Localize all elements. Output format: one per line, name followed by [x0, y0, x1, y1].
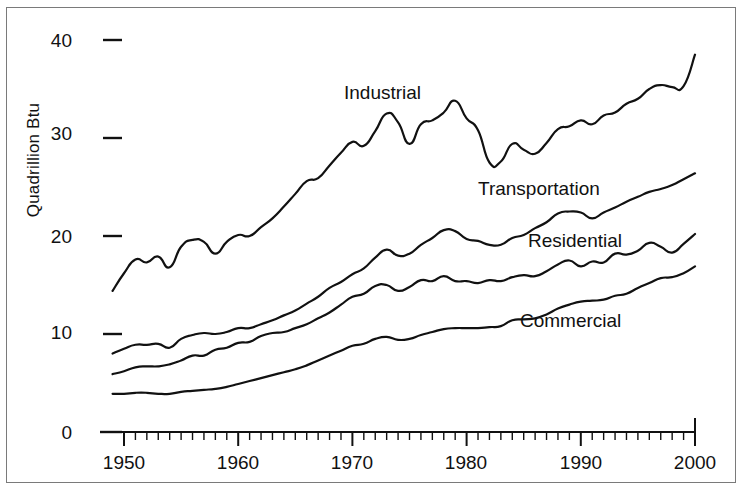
y-tick-label-0: 0: [26, 422, 72, 444]
y-axis-label-text: Quadrillion Btu: [24, 103, 44, 218]
y-tick-label-30: 30: [26, 123, 72, 145]
chart-plot-area: [0, 0, 742, 490]
series-label-industrial: Industrial: [344, 82, 421, 104]
x-tick-label-1960: 1960: [203, 452, 273, 474]
series-label-commercial: Commercial: [520, 310, 621, 332]
y-tick-label-40: 40: [26, 30, 72, 52]
y-tick-label-10: 10: [26, 322, 72, 344]
chart-figure: Quadrillion Btu 40 30 20 10 0 1950 1960 …: [0, 0, 742, 490]
x-tick-label-2000: 2000: [660, 452, 730, 474]
x-tick-label-1950: 1950: [89, 452, 159, 474]
x-tick-label-1980: 1980: [431, 452, 501, 474]
series-lines: [113, 55, 695, 394]
series-label-transportation: Transportation: [478, 178, 600, 200]
y-axis-label: Quadrillion Btu: [19, 30, 49, 290]
x-tick-label-1990: 1990: [546, 452, 616, 474]
x-axis: [113, 418, 695, 446]
series-label-residential: Residential: [528, 230, 622, 252]
x-tick-label-1970: 1970: [317, 452, 387, 474]
y-tick-label-20: 20: [26, 226, 72, 248]
